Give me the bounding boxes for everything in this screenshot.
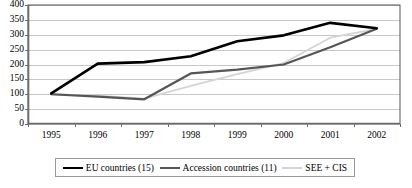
y-axis-tick-label: 150 — [0, 74, 24, 84]
x-axis-tick-label: 1996 — [78, 130, 118, 140]
legend: EU countries (15) Accession countries (1… — [55, 158, 355, 177]
legend-item-accession-countries: Accession countries (11) — [160, 163, 277, 173]
y-axis-tick-label: 50 — [0, 104, 24, 114]
line-swatch-black-icon — [63, 167, 83, 169]
line-swatch-gray-icon — [160, 167, 180, 169]
plot-area: 400350300250200150100500 199519961997199… — [0, 0, 412, 135]
line-chart: 400350300250200150100500 199519961997199… — [0, 0, 412, 188]
y-axis-tick-label: 350 — [0, 15, 24, 25]
legend-label-see-cis: SEE + CIS — [305, 163, 347, 173]
legend-item-eu-countries: EU countries (15) — [63, 163, 154, 173]
legend-label-eu-countries: EU countries (15) — [86, 163, 154, 173]
y-axis-tick-label: 250 — [0, 45, 24, 55]
legend-item-see-cis: SEE + CIS — [282, 163, 347, 173]
x-axis-tick-label: 1997 — [124, 130, 164, 140]
x-axis-tick-label: 2002 — [357, 130, 397, 140]
x-axis-tick-label: 1998 — [171, 130, 211, 140]
y-axis-tick-label: 100 — [0, 89, 24, 99]
y-axis-tick-label: 0 — [0, 119, 24, 129]
line-swatch-light-gray-icon — [282, 167, 302, 169]
plot-background — [28, 5, 400, 124]
x-axis-tick-label: 1999 — [217, 130, 257, 140]
y-axis-tick-label: 200 — [0, 60, 24, 70]
x-axis-tick-label: 2001 — [310, 130, 350, 140]
y-axis-tick-label: 400 — [0, 0, 24, 10]
legend-label-accession-countries: Accession countries (11) — [183, 163, 277, 173]
x-axis-tick-label: 1995 — [31, 130, 71, 140]
plot-svg — [0, 0, 412, 135]
x-axis-tick-label: 2000 — [264, 130, 304, 140]
y-axis-tick-label: 300 — [0, 30, 24, 40]
